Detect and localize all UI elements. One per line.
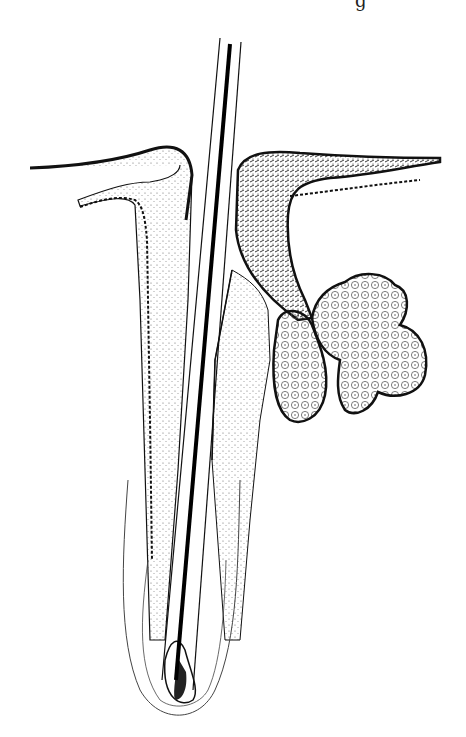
right-outer-sheath (212, 270, 270, 640)
left-follicle-wall (30, 147, 192, 640)
hair-follicle-illustration (0, 0, 466, 737)
